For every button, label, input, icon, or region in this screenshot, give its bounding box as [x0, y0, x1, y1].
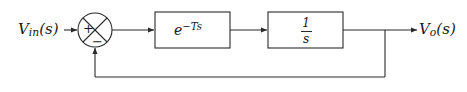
integrator-block-label: 1 s — [296, 17, 316, 47]
delay-label-exponent: −Ts — [182, 21, 202, 32]
input-label-base: V — [18, 20, 29, 38]
input-signal-label: Vin(s) — [18, 22, 59, 39]
input-label-subscript: in — [29, 26, 39, 39]
integrator-denominator: s — [296, 33, 316, 46]
delay-block-label: e−Ts — [174, 22, 202, 37]
block-diagram: Vin(s) + − e−Ts 1 s Vo(s) — [0, 0, 467, 92]
summing-junction-minus-sign: − — [92, 35, 103, 48]
input-label-arg: (s) — [39, 20, 58, 38]
output-signal-label: Vo(s) — [419, 22, 456, 39]
output-label-arg: (s) — [436, 20, 455, 38]
diagram-canvas — [0, 0, 467, 92]
output-label-base: V — [419, 20, 430, 38]
integrator-numerator: 1 — [296, 17, 316, 30]
